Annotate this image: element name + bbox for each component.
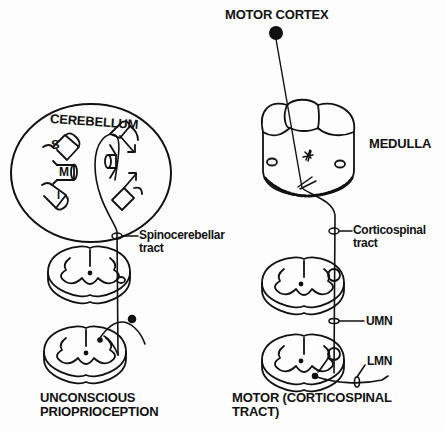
right-caption-line2: TRACT): [232, 405, 392, 419]
left-caption-line2: PRIOPRIOCEPTION: [40, 405, 158, 419]
right-caption-line1: MOTOR (CORTICOSPINAL: [232, 391, 392, 405]
sensory-afferent-neuron: [98, 316, 145, 356]
cerebellum-folium-superior-icon: [43, 133, 80, 160]
umn-label: UMN: [366, 315, 392, 328]
medulla-section: [262, 100, 354, 196]
corticospinal-tract-label-line1: Corticospinal: [353, 224, 426, 237]
left-caption-line1: UNCONSCIOUS: [40, 391, 158, 405]
spinocerebellar-tract-label-line2: tract: [139, 242, 225, 255]
corticospinal-tract-label: Corticospinal tract: [353, 224, 426, 249]
medulla-label: MEDULLA: [369, 137, 431, 151]
spinal-cord-section-left-lower: [44, 326, 126, 383]
spinocerebellar-tract-label-line1: Spinocerebellar: [139, 229, 225, 242]
corticospinal-tract-label-line2: tract: [353, 237, 426, 250]
lobe-label-s: S: [51, 138, 59, 152]
spinal-cord-section-right-upper: [262, 257, 344, 314]
neuro-pathways-diagram: CEREBELLUM S M I Spinocerebellar tract U…: [0, 0, 446, 431]
right-caption: MOTOR (CORTICOSPINAL TRACT): [232, 391, 392, 418]
lmn-label: LMN: [367, 355, 392, 368]
left-caption: UNCONSCIOUS PRIOPRIOCEPTION: [40, 391, 158, 418]
corticospinal-tract-marker-icon: [329, 228, 352, 234]
motor-cortex-label: MOTOR CORTEX: [225, 8, 329, 22]
lobe-label-m: M: [59, 166, 69, 179]
cerebellum-arrows: [120, 136, 136, 188]
cerebellum-folium-inferior-icon: [42, 183, 68, 210]
spinal-cord-section-right-lower: [262, 334, 344, 391]
spinocerebellar-tract-label: Spinocerebellar tract: [139, 229, 225, 254]
lobe-label-i: I: [57, 190, 60, 202]
